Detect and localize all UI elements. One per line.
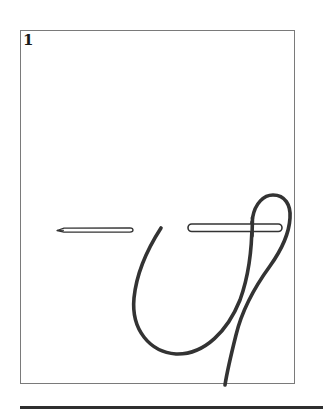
rod-icon (188, 224, 282, 232)
bottom-rule (20, 406, 323, 409)
knot-illustration (0, 0, 323, 419)
needle-icon (57, 228, 133, 232)
cord-icon (134, 222, 252, 354)
